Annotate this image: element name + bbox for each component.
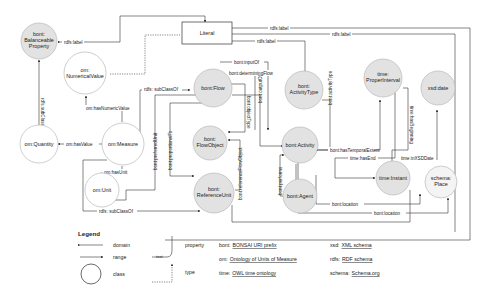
edge-label-rdfs-label: rdfs:label [270,26,289,31]
edge-label-reference-flow-object: bont:referenceFlowObject [238,147,243,200]
edge-label-temporal-extent: bont:hasTemporalExtent [330,148,380,153]
edge-label-subclassof-flow: rdfs: subClassOf [144,87,179,92]
edge-label-rdfs-label: rdfs:label [257,39,276,44]
edge-label-object-type: bont:objectType [246,96,251,129]
edge-flow-subclass [140,90,190,144]
svg-text:bont:Activity: bont:Activity [285,142,314,148]
node-balanceable-property: bont: Balanceable Property [21,23,57,59]
svg-text:bont:Flow: bont:Flow [201,85,224,91]
node-numerical-value: om: NumericalValue [64,52,106,94]
prefix-bont: bont:BONSAI URI prefix [219,242,277,248]
prefix-schema: schema:Schema.org [330,270,380,276]
legend: Legend domain range class text property … [78,230,380,284]
svg-text:ReferenceUnit: ReferenceUnit [197,192,232,198]
node-xsd-date: xsd:date [421,71,455,105]
prefix-rdfs: rdfs:RDF schema [330,256,372,262]
svg-text:Literal: Literal [200,30,215,36]
prefix-xsd: xsd:XML schema [330,242,372,248]
svg-text:om:Quantity: om:Quantity [24,141,53,147]
svg-text:ProperInterval: ProperInterval [366,77,400,83]
node-unit: om:Unit [85,173,119,207]
edge-label-output-of: bont:outputOf [258,74,263,103]
edge-label-determining-flow: bont:determiningFlow [229,71,274,76]
svg-text:Place: Place [434,181,448,187]
prefix-om: om:Ontology of Units of Measure [219,256,297,262]
edge-label-location-2: bont:location [374,211,400,216]
svg-text:ActivityType: ActivityType [290,89,319,95]
legend-property-label: property [185,242,204,248]
edge-label-proportional-to: bont:proportionalTo [168,130,173,170]
svg-text:time:Instant: time:Instant [379,175,407,181]
node-flow: bont:Flow [194,69,232,107]
svg-text:FlowObject: FlowObject [197,142,224,148]
edge-label-rdfs-label: rdfs:label [64,40,83,45]
node-proper-interval: time: ProperInterval [364,59,402,97]
edge-label-input-of: bont:inputOf [234,60,260,65]
edge-label-subclassof-refunit: rdfs: subClassOf [99,209,134,214]
edge-label-activity-type: bont:activityType [328,70,333,105]
edge-refunit-loop [232,190,410,222]
node-agent: bont:Agent [283,179,317,213]
edge-label-rdfs-label: rdfs:label [332,32,351,37]
legend-title: Legend [78,230,100,237]
svg-text:bont:Agent: bont:Agent [287,193,314,199]
svg-text:NumericalValue: NumericalValue [66,73,104,79]
edge-label-preferred-unit: bont:preferredUnit [153,132,158,170]
node-activity-type: bont: ActivityType [285,71,323,109]
node-reference-unit: bont: ReferenceUnit [194,173,234,213]
edge-numericalvalue-literal [110,35,180,74]
svg-text:om:Unit: om:Unit [93,187,112,193]
edge-label-location-1: bont:location [332,202,358,207]
edge-label-has-value: om:hasValue [66,142,93,147]
prefix-time: time:OWL time ontology [219,270,277,276]
node-quantity: om:Quantity [20,125,58,163]
node-activity: bont:Activity [282,127,318,163]
node-place: schema: Place [425,166,457,198]
literal-node: Literal [182,22,232,44]
node-instant: time:Instant [376,161,410,195]
edge-label-performs: bont:performs [278,166,283,195]
node-measure: om:Measure [102,123,144,165]
edge-label-has-beginning: time:hasBeginning [409,106,414,144]
legend-class-circle [81,264,101,284]
edge-label-has-numeric-value: om:hasNumericValue [86,106,130,111]
legend-domain-label: domain [113,242,130,248]
legend-type-label: type [185,269,195,275]
svg-text:Property: Property [29,43,50,49]
svg-text:om:Measure: om:Measure [108,141,138,147]
edge-label-has-end: time:hasEnd [350,156,376,161]
legend-type-line [152,264,172,282]
legend-class-label: class [113,271,125,277]
node-flow-object: bont: FlowObject [193,126,227,160]
edge-temporal-extent [318,100,380,150]
svg-text:xsd:date: xsd:date [428,85,448,91]
edge-label-in-xsd-date: time:inXSDDate [401,156,434,161]
legend-range-label: range [113,254,126,260]
edge-has-beginning [392,88,408,166]
legend-text-label: text [156,254,164,259]
ontology-diagram: rdfs:label rdfs:label rdfs:label rdfs:la… [0,0,494,302]
